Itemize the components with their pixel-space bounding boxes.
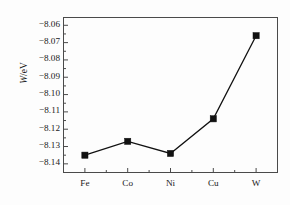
data-polyline [85, 36, 256, 155]
axis-frame-rect [64, 18, 278, 173]
y-axis-tick-marks [64, 25, 69, 164]
plot-area [0, 0, 290, 205]
data-point-marker [82, 152, 88, 158]
data-markers [82, 33, 259, 159]
data-point-marker [125, 138, 131, 144]
x-axis-tick-marks [85, 168, 256, 173]
data-point-marker [167, 150, 173, 156]
figure-container: W/eV −8.06−8.07−8.08−8.09−8.10−8.11−8.12… [0, 0, 290, 205]
data-line [85, 36, 256, 155]
axis-frame [64, 18, 278, 173]
data-point-marker [210, 116, 216, 122]
data-point-marker [253, 33, 259, 39]
